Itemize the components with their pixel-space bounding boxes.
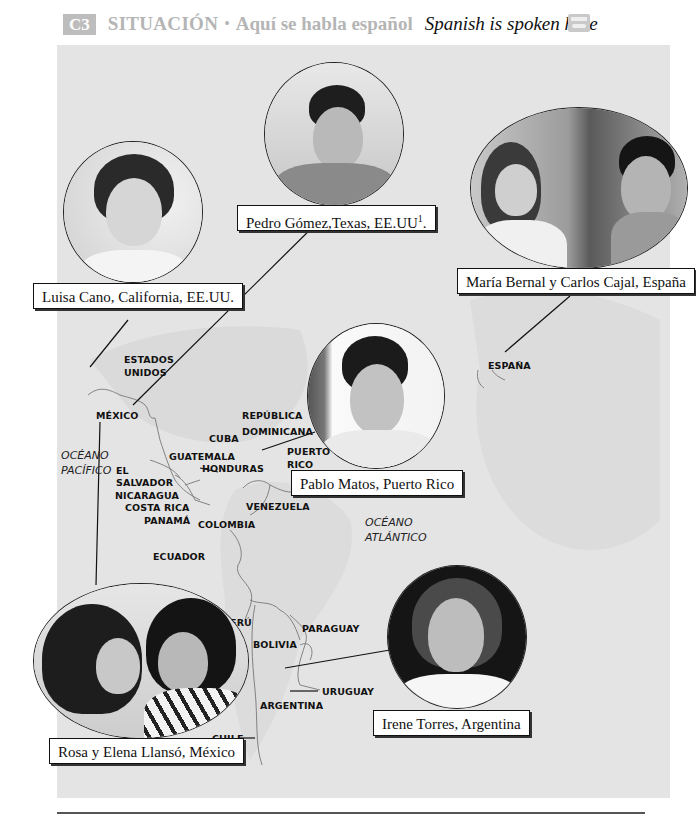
bottom-rule (57, 812, 645, 814)
label-mexico: MÉXICO (96, 409, 138, 422)
label-panama: PANAMÁ (144, 514, 190, 527)
label-oceano-atlantico: OCÉANO ATLÁNTICO (365, 515, 427, 545)
caption-rosa-elena-llanso: Rosa y Elena Llansó, México (49, 738, 244, 764)
label-ecuador: ECUADOR (153, 550, 205, 563)
label-oceano-pacifico: OCÉANO PACÍFICO (61, 448, 111, 478)
label-costa-rica: COSTA RICA (125, 501, 189, 514)
caption-pablo-matos: Pablo Matos, Puerto Rico (291, 470, 463, 496)
photo-maria-bernal-carlos-cajal (470, 107, 688, 269)
label-venezuela: VENEZUELA (246, 500, 310, 513)
label-argentina: ARGENTINA (260, 699, 323, 712)
photo-pedro-gomez (264, 62, 404, 206)
photo-rosa-elena-llanso (33, 583, 249, 739)
label-honduras: HONDURAS (202, 462, 264, 475)
label-cuba: CUBA (209, 432, 239, 445)
label-bolivia: BOLIVIA (253, 638, 297, 651)
caption-irene-torres: Irene Torres, Argentina (373, 710, 530, 736)
photo-pablo-matos (307, 323, 445, 469)
label-espana: ESPAÑA (488, 359, 531, 372)
caption-pedro-gomez: Pedro Gómez,Texas, EE.UU1. (237, 205, 436, 231)
label-uruguay: URUGUAY (322, 685, 374, 698)
label-republica-dominicana: REPÚBLICA DOMINICANA (242, 408, 313, 440)
caption-luisa-cano: Luisa Cano, California, EE.UU. (33, 283, 243, 309)
label-estados-unidos: ESTADOS UNIDOS (124, 353, 174, 379)
label-paraguay: PARAGUAY (302, 622, 359, 635)
photo-irene-torres (387, 565, 527, 709)
caption-maria-carlos: María Bernal y Carlos Cajal, España (457, 268, 695, 294)
label-colombia: COLOMBIA (198, 518, 255, 531)
label-el-salvador: EL SALVADOR (116, 465, 173, 489)
photo-luisa-cano (63, 141, 203, 283)
